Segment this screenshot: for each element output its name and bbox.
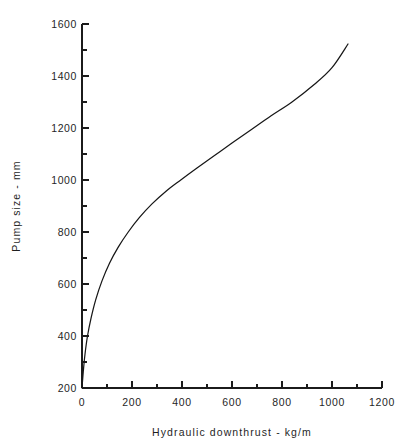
y-tick-label: 600 <box>58 278 77 290</box>
x-axis-tick-labels: 020040060080010001200 <box>79 396 395 408</box>
y-tick-label: 1400 <box>51 70 77 82</box>
y-tick-label: 400 <box>58 330 77 342</box>
y-axis-tick-labels: 2004006008001000120014001600 <box>51 18 77 394</box>
x-tick-label: 200 <box>122 396 141 408</box>
y-axis-title: Pump size - mm <box>10 160 22 251</box>
x-tick-label: 400 <box>172 396 191 408</box>
axes-group <box>82 24 382 388</box>
x-tick-label: 1200 <box>369 396 395 408</box>
y-tick-label: 1000 <box>51 174 77 186</box>
x-axis-ticks <box>82 381 382 388</box>
line-chart: 2004006008001000120014001600 02004006008… <box>0 0 412 448</box>
chart-figure: 2004006008001000120014001600 02004006008… <box>0 0 412 448</box>
y-tick-label: 1600 <box>51 18 77 30</box>
x-tick-label: 0 <box>79 396 85 408</box>
y-tick-label: 800 <box>58 226 77 238</box>
y-tick-label: 200 <box>58 382 77 394</box>
data-series-group <box>82 44 348 388</box>
x-tick-label: 1000 <box>319 396 345 408</box>
x-axis-title: Hydraulic downthrust - kg/m <box>152 426 312 438</box>
data-series-line <box>82 44 348 388</box>
x-tick-label: 800 <box>272 396 291 408</box>
y-tick-label: 1200 <box>51 122 77 134</box>
x-tick-label: 600 <box>222 396 241 408</box>
